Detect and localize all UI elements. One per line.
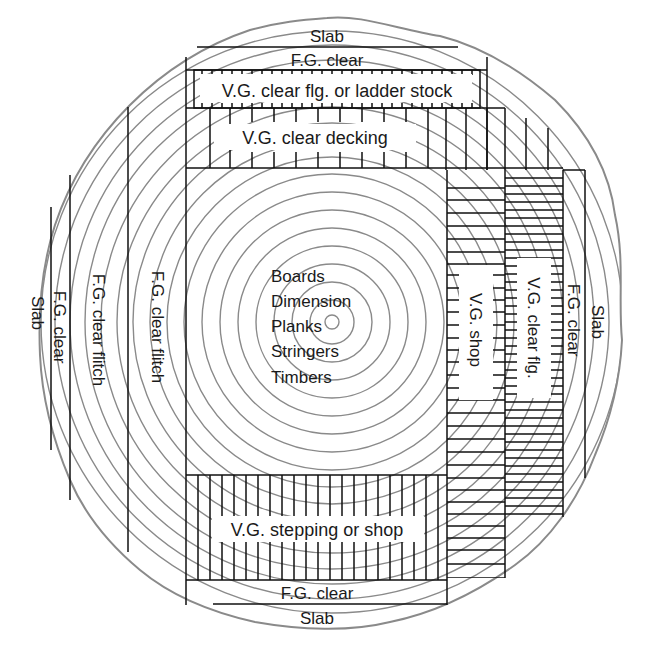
product-planks: Planks (271, 317, 322, 336)
product-dimension: Dimension (271, 292, 351, 311)
product-timbers: Timbers (271, 368, 332, 387)
fg-clear-flitch-outer-label: F.G. clear flitch (89, 274, 108, 386)
vg-shop-label: V.G. shop (466, 293, 485, 367)
vg-decking-label: V.G. clear decking (242, 128, 387, 148)
product-boards: Boards (271, 267, 325, 286)
product-stringers: Stringers (271, 342, 339, 361)
slab-right-label: Slab (588, 305, 607, 339)
vg-clear-flg-label: V.G. clear flg. (524, 277, 543, 378)
slab-bottom-label: Slab (300, 609, 334, 628)
fg-clear-flitch-inner-label: F.G. clear flitch (148, 271, 167, 383)
fg-clear-left-label: F.G. clear (50, 291, 69, 364)
fg-clear-bottom-label: F.G. clear (281, 584, 354, 603)
slab-top-label: Slab (310, 27, 344, 46)
vg-stepping-shop-label: V.G. stepping or shop (231, 520, 403, 540)
fg-clear-top-label: F.G. clear (291, 51, 364, 70)
center-products: Boards Dimension Planks Stringers Timber… (271, 267, 351, 387)
fg-clear-right-label: F.G. clear (564, 284, 583, 357)
log-sawing-diagram: Slab F.G. clear V.G. clear flg. or ladde… (0, 0, 654, 646)
slab-left-label: Slab (28, 296, 47, 330)
vg-flg-ladder-label: V.G. clear flg. or ladder stock (222, 81, 453, 101)
diagram-canvas: Slab F.G. clear V.G. clear flg. or ladde… (0, 0, 654, 646)
